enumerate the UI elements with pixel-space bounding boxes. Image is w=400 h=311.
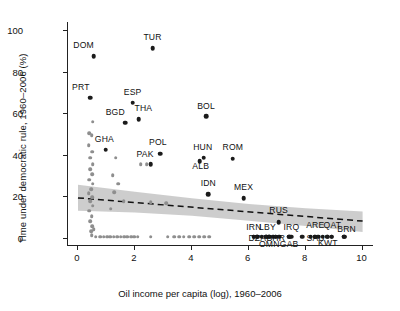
point-label-hun: HUN: [193, 142, 212, 152]
data-point: [177, 235, 181, 239]
data-point: [109, 207, 113, 211]
point-label-tur: TUR: [143, 32, 161, 42]
data-point-labeled: [137, 117, 142, 122]
point-label-pak: PAK: [136, 149, 153, 159]
data-point: [90, 150, 94, 154]
y-tick-label: 40: [0, 149, 23, 160]
data-point: [90, 133, 94, 137]
data-point: [117, 182, 121, 186]
point-label-bgd: BGD: [106, 107, 125, 117]
data-point-labeled: [104, 147, 109, 152]
data-point: [94, 235, 98, 239]
data-point: [172, 235, 176, 239]
data-point: [89, 200, 93, 204]
data-point: [300, 234, 305, 239]
data-point: [111, 174, 115, 178]
data-point: [90, 195, 94, 199]
data-point: [136, 235, 140, 239]
point-label-rus: RUS: [269, 205, 288, 215]
data-point: [91, 204, 95, 208]
data-point-labeled: [204, 114, 209, 119]
x-tick-mark: [248, 246, 249, 250]
data-point-labeled: [231, 157, 236, 162]
data-point-labeled: [342, 234, 347, 239]
point-label-gab: GAB: [280, 239, 299, 249]
data-point-labeled: [206, 192, 211, 197]
data-point: [197, 235, 201, 239]
data-point-labeled: [276, 220, 281, 225]
data-point: [88, 209, 92, 213]
data-point: [87, 191, 91, 195]
x-tick-mark: [77, 246, 78, 250]
data-point: [114, 156, 118, 160]
data-point: [89, 167, 93, 171]
x-tick-mark: [134, 246, 135, 250]
x-axis-label: Oil income per capita (log), 1960–2006: [0, 288, 400, 299]
x-tick-label: 0: [62, 252, 92, 263]
data-point: [92, 228, 96, 232]
point-label-pol: POL: [149, 137, 167, 147]
data-point-labeled: [88, 95, 93, 100]
data-point-labeled: [91, 54, 96, 59]
scatter-plot-figure: Time under democratic rule, 1960–2006 (%…: [0, 0, 400, 311]
x-tick-label: 10: [347, 252, 377, 263]
data-point: [88, 156, 92, 160]
data-point: [182, 235, 186, 239]
data-point: [149, 235, 153, 239]
data-point: [192, 235, 196, 239]
point-label-esp: ESP: [124, 87, 142, 97]
data-point-labeled: [148, 162, 153, 167]
data-point: [90, 173, 94, 177]
y-tick-label: 60: [0, 108, 23, 119]
data-point: [208, 235, 212, 239]
point-label-lby: LBY: [259, 222, 276, 232]
data-point-labeled: [158, 151, 163, 156]
point-label-are: ARE: [306, 220, 324, 230]
data-point: [203, 235, 207, 239]
data-point: [91, 120, 95, 124]
y-tick-label: 20: [0, 191, 23, 202]
data-point: [91, 182, 95, 186]
data-point: [88, 178, 92, 182]
point-label-omn: OMN: [259, 239, 280, 249]
x-tick-label: 8: [290, 252, 320, 263]
data-point: [113, 190, 117, 194]
data-point-labeled: [123, 120, 128, 125]
point-label-brn: BRN: [337, 224, 356, 234]
y-tick-label: 80: [0, 66, 23, 77]
y-axis-label: Time under democratic rule, 1960–2006 (%…: [17, 53, 28, 243]
data-point: [187, 235, 191, 239]
data-point: [90, 233, 94, 237]
x-tick-label: 2: [119, 252, 149, 263]
plot-area: DOMTURPRTESPBGDTHABOLGHAPOLPAKHUNALBROMI…: [67, 22, 373, 246]
data-point-labeled: [150, 46, 155, 51]
point-label-mex: MEX: [234, 182, 253, 192]
data-point: [139, 162, 143, 166]
data-point-labeled: [241, 196, 246, 201]
data-point: [88, 219, 92, 223]
data-point: [164, 202, 168, 206]
x-tick-mark: [362, 246, 363, 250]
point-label-idn: IDN: [201, 178, 216, 188]
point-label-bol: BOL: [197, 101, 215, 111]
point-label-tha: THA: [134, 103, 152, 113]
y-tick-label: 0: [0, 232, 23, 243]
data-point: [166, 235, 170, 239]
data-point: [122, 200, 126, 204]
point-label-gha: GHA: [95, 134, 114, 144]
y-tick-label: 100: [0, 25, 23, 36]
x-tick-label: 4: [176, 252, 206, 263]
data-point: [90, 214, 94, 218]
x-tick-label: 6: [233, 252, 263, 263]
point-label-prt: PRT: [72, 82, 90, 92]
data-point: [87, 144, 91, 148]
point-label-rom: ROM: [222, 142, 243, 152]
data-point: [91, 162, 95, 166]
point-label-kwt: KWT: [318, 238, 338, 248]
data-point: [89, 187, 93, 191]
point-label-dom: DOM: [73, 40, 94, 50]
point-label-alb: ALB: [192, 161, 209, 171]
x-tick-mark: [305, 246, 306, 250]
data-point: [149, 201, 153, 205]
x-tick-mark: [191, 246, 192, 250]
